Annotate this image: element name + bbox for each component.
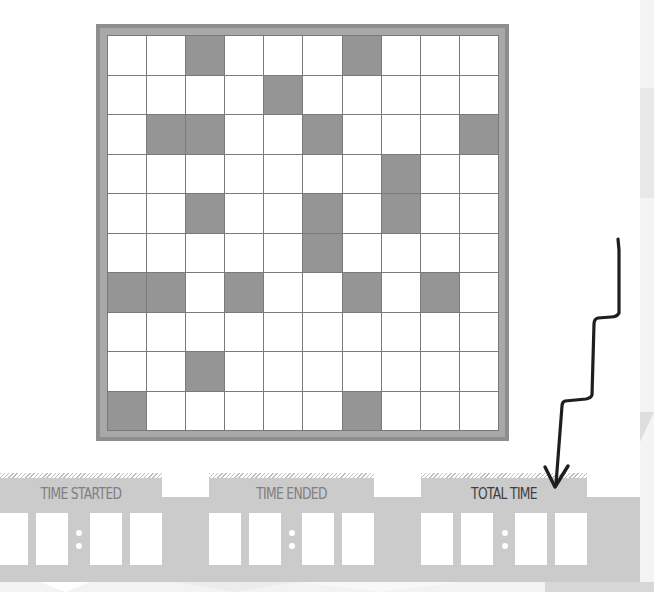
time-started-digit-3[interactable] [90,513,122,565]
grid-cell-filled[interactable] [303,115,341,154]
grid-cell-filled[interactable] [186,194,224,233]
grid-cell-filled[interactable] [421,273,459,312]
grid-cell-empty[interactable] [186,234,224,273]
grid-cell-empty[interactable] [186,313,224,352]
grid-cell-filled[interactable] [108,392,146,431]
grid-cell-empty[interactable] [147,313,185,352]
grid-cell-empty[interactable] [264,352,302,391]
grid-cell-filled[interactable] [343,392,381,431]
total-time-digit-1[interactable] [421,513,453,565]
grid-cell-filled[interactable] [186,115,224,154]
grid-cell-empty[interactable] [382,76,420,115]
grid-cell-empty[interactable] [108,115,146,154]
time-ended-digit-2[interactable] [249,513,281,565]
grid-cell-empty[interactable] [343,76,381,115]
time-started-digit-4[interactable] [130,513,162,565]
grid-cell-empty[interactable] [108,194,146,233]
grid-cell-filled[interactable] [382,194,420,233]
grid-cell-empty[interactable] [147,155,185,194]
grid-cell-empty[interactable] [108,313,146,352]
grid-cell-empty[interactable] [303,273,341,312]
grid-cell-empty[interactable] [382,313,420,352]
time-ended-digit-4[interactable] [342,513,374,565]
grid-cell-empty[interactable] [225,392,263,431]
grid-cell-empty[interactable] [303,76,341,115]
grid-cell-empty[interactable] [303,313,341,352]
grid-cell-filled[interactable] [303,194,341,233]
grid-cell-empty[interactable] [108,234,146,273]
grid-cell-empty[interactable] [186,155,224,194]
grid-cell-empty[interactable] [225,76,263,115]
total-time-digit-3[interactable] [515,513,547,565]
grid-cell-empty[interactable] [460,36,498,75]
grid-cell-empty[interactable] [303,36,341,75]
grid-cell-empty[interactable] [343,194,381,233]
grid-cell-empty[interactable] [421,155,459,194]
grid-cell-empty[interactable] [421,36,459,75]
grid-cell-empty[interactable] [421,115,459,154]
grid-cell-filled[interactable] [264,76,302,115]
time-ended-digit-3[interactable] [302,513,334,565]
time-ended-digit-1[interactable] [209,513,241,565]
grid-cell-filled[interactable] [343,273,381,312]
grid-cell-filled[interactable] [186,352,224,391]
grid-cell-empty[interactable] [264,36,302,75]
grid-cell-empty[interactable] [303,392,341,431]
grid-cell-empty[interactable] [264,234,302,273]
grid-cell-empty[interactable] [108,76,146,115]
grid-cell-empty[interactable] [264,313,302,352]
grid-cell-filled[interactable] [343,36,381,75]
grid-cell-empty[interactable] [460,76,498,115]
grid-cell-empty[interactable] [264,115,302,154]
grid-cell-empty[interactable] [343,155,381,194]
grid-cell-filled[interactable] [460,115,498,154]
grid-cell-empty[interactable] [343,115,381,154]
grid-cell-empty[interactable] [421,352,459,391]
grid-cell-empty[interactable] [147,352,185,391]
grid-cell-empty[interactable] [382,115,420,154]
grid-cell-empty[interactable] [225,194,263,233]
grid-cell-empty[interactable] [382,352,420,391]
grid-cell-empty[interactable] [264,155,302,194]
grid-cell-empty[interactable] [421,392,459,431]
grid-cell-empty[interactable] [225,234,263,273]
grid-cell-empty[interactable] [186,392,224,431]
grid-cell-filled[interactable] [147,115,185,154]
grid-cell-empty[interactable] [460,392,498,431]
grid-cell-empty[interactable] [343,352,381,391]
grid-cell-empty[interactable] [421,234,459,273]
grid-cell-empty[interactable] [421,194,459,233]
grid-cell-filled[interactable] [108,273,146,312]
grid-cell-empty[interactable] [108,155,146,194]
time-started-digit-1[interactable] [0,513,28,565]
grid-cell-empty[interactable] [147,36,185,75]
grid-cell-empty[interactable] [460,155,498,194]
grid-cell-empty[interactable] [303,352,341,391]
time-started-digit-2[interactable] [36,513,68,565]
grid-cell-empty[interactable] [147,76,185,115]
grid-cell-filled[interactable] [225,273,263,312]
grid-cell-empty[interactable] [225,313,263,352]
grid-cell-empty[interactable] [460,313,498,352]
grid-cell-filled[interactable] [186,36,224,75]
grid-cell-empty[interactable] [382,36,420,75]
grid-cell-filled[interactable] [303,234,341,273]
total-time-digit-2[interactable] [461,513,493,565]
grid-cell-empty[interactable] [460,352,498,391]
grid-cell-empty[interactable] [225,115,263,154]
grid-cell-empty[interactable] [186,273,224,312]
grid-cell-empty[interactable] [147,392,185,431]
grid-cell-empty[interactable] [382,234,420,273]
grid-cell-empty[interactable] [108,352,146,391]
grid-cell-empty[interactable] [186,76,224,115]
grid-cell-empty[interactable] [147,194,185,233]
grid-cell-empty[interactable] [108,36,146,75]
grid-cell-filled[interactable] [147,273,185,312]
grid-cell-empty[interactable] [225,155,263,194]
grid-cell-empty[interactable] [421,76,459,115]
grid-cell-empty[interactable] [460,234,498,273]
grid-cell-empty[interactable] [264,273,302,312]
total-time-digit-4[interactable] [555,513,587,565]
grid-cell-empty[interactable] [421,313,459,352]
grid-cell-empty[interactable] [303,155,341,194]
